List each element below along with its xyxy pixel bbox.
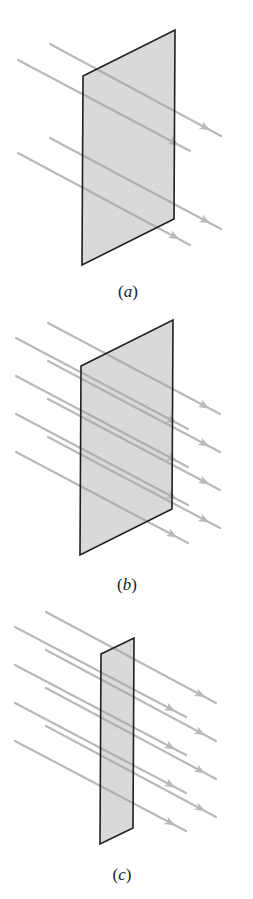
label-letter: b xyxy=(123,575,132,594)
surface-plane xyxy=(80,320,173,555)
label-paren-close: ) xyxy=(126,865,132,884)
label-paren-close: ) xyxy=(131,575,137,594)
panel-a xyxy=(18,30,221,265)
flux-diagram: (a) (b) (c) xyxy=(0,0,253,899)
surface-plane xyxy=(100,638,134,844)
label-paren-close: ) xyxy=(132,282,138,301)
label-letter: c xyxy=(118,865,126,884)
panel-b xyxy=(16,320,220,555)
panel-b-label: (b) xyxy=(97,575,157,595)
diagram-canvas xyxy=(0,0,253,899)
panel-c-label: (c) xyxy=(92,865,152,885)
panel-c xyxy=(15,612,216,844)
label-letter: a xyxy=(124,282,133,301)
panel-a-label: (a) xyxy=(98,282,158,302)
